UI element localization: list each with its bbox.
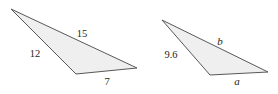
figure-canvas: 15 12 7 b 9.6 a [0,0,278,94]
left-triangle-side-label-12: 12 [30,48,41,59]
left-triangle-shape [11,9,137,74]
right-triangle-shape [162,20,268,75]
left-triangle-side-label-15: 15 [77,28,88,39]
similar-triangles-figure: 15 12 7 b 9.6 a [0,0,278,94]
right-triangle-side-label-a: a [234,75,240,87]
right-triangle-side-label-b: b [217,35,223,47]
right-triangle-side-label-9-6: 9.6 [164,49,177,60]
left-triangle-side-label-7: 7 [104,76,109,87]
